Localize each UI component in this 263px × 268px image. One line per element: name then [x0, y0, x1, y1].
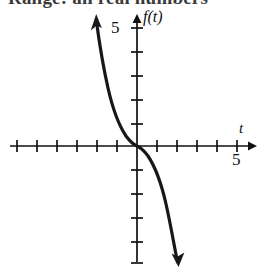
- x-axis-tick-label-5: 5: [232, 150, 241, 170]
- graph-figure: Range: all real numbers: [0, 0, 263, 268]
- curve-lower-arrowhead: [172, 253, 185, 268]
- x-axis-label: t: [239, 120, 243, 137]
- plot-canvas: [0, 0, 263, 268]
- x-axis-arrowhead: [248, 142, 257, 151]
- y-axis-tick-label-5: 5: [111, 18, 120, 38]
- y-axis-label: f(t): [143, 8, 163, 26]
- y-axis-arrowhead: [133, 14, 142, 23]
